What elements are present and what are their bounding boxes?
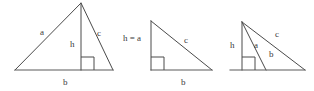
right-triangle-group: [151, 21, 212, 70]
obtuse-label-height-h: h: [230, 41, 235, 50]
right-triangle-hypotenuse-c: [151, 21, 212, 70]
obtuse-label-side-a: a: [254, 41, 258, 50]
obtuse-triangle-right-angle-icon: [242, 57, 255, 70]
acute-label-height-h: h: [70, 40, 75, 49]
right-label-side-c: c: [184, 36, 188, 45]
obtuse-triangle-group: [230, 22, 305, 70]
acute-triangle-right-angle-icon: [81, 57, 94, 70]
acute-label-base-b: b: [63, 78, 68, 87]
right-label-base-b: b: [181, 78, 186, 87]
right-label-height-equals-a: h = a: [123, 34, 141, 43]
obtuse-label-base-b: b: [269, 50, 274, 59]
triangle-figure-canvas: [0, 0, 314, 91]
obtuse-label-side-c: c: [275, 30, 279, 39]
acute-label-side-a: a: [40, 28, 44, 37]
acute-label-side-c: c: [97, 29, 101, 38]
right-triangle-right-angle-icon: [151, 57, 164, 70]
triangle-figure: a h c b h = a c b h a c b: [0, 0, 314, 91]
obtuse-triangle-side-c: [242, 22, 305, 70]
